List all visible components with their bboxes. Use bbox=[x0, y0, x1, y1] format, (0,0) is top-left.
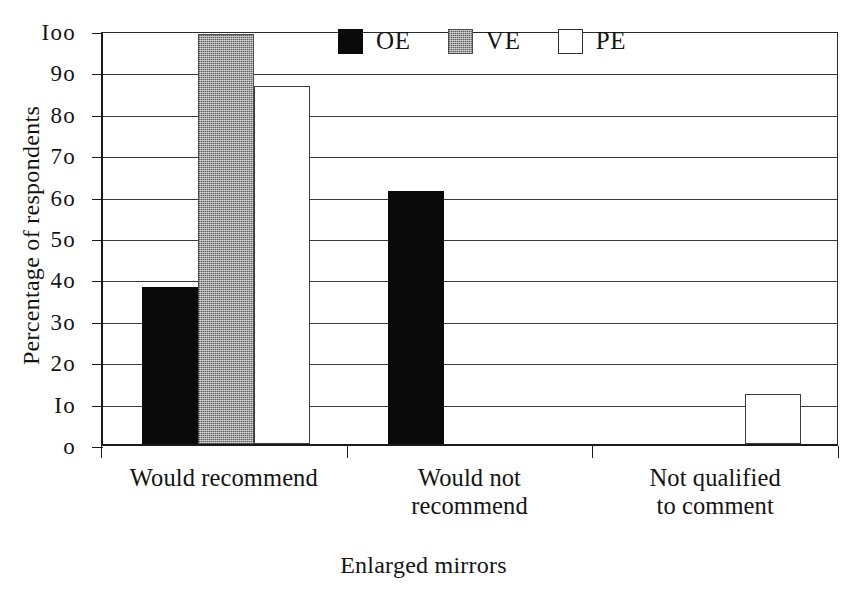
x-axis-category-line: Not qualified bbox=[592, 464, 838, 492]
y-axis-tick-label: 3o bbox=[18, 311, 76, 334]
y-axis-tick bbox=[92, 281, 103, 282]
y-axis-tick-label: o bbox=[18, 435, 76, 458]
x-axis-category-line: Would not bbox=[347, 464, 593, 492]
white-swatch bbox=[558, 29, 583, 54]
y-axis-tick-label: 6o bbox=[18, 187, 76, 210]
x-axis-tick bbox=[347, 446, 348, 458]
x-axis-category-1: Would recommend bbox=[101, 464, 347, 492]
x-axis-tick bbox=[592, 446, 593, 458]
bar-oe-group-2 bbox=[388, 191, 444, 444]
legend: OEVEPE bbox=[338, 27, 626, 55]
gray-swatch bbox=[448, 29, 473, 54]
y-axis-tick bbox=[92, 116, 103, 117]
x-axis-tick bbox=[838, 446, 839, 458]
y-axis-tick bbox=[92, 199, 103, 200]
legend-label: VE bbox=[486, 27, 521, 55]
y-axis-tick-label: 2o bbox=[18, 352, 76, 375]
bar-oe-group-1 bbox=[142, 287, 198, 444]
y-axis-tick-label: 4o bbox=[18, 269, 76, 292]
y-axis-tick-label: 8o bbox=[18, 104, 76, 127]
y-axis-tick bbox=[92, 406, 103, 407]
y-axis-tick-label: Io bbox=[18, 394, 76, 417]
y-axis-tick bbox=[92, 74, 103, 75]
x-axis-category-3: Not qualifiedto comment bbox=[592, 464, 838, 520]
plot-area bbox=[101, 32, 838, 446]
y-axis-tick bbox=[92, 240, 103, 241]
y-axis-tick bbox=[92, 33, 103, 34]
y-axis-tick-label: 7o bbox=[18, 145, 76, 168]
legend-label: OE bbox=[376, 27, 411, 55]
x-axis-category-line: Would recommend bbox=[101, 464, 347, 492]
y-axis-tick bbox=[92, 364, 103, 365]
bar-chart-figure: Percentage of respondents oIo2o3o4o5o6o7… bbox=[0, 0, 847, 603]
x-axis-category-2: Would notrecommend bbox=[347, 464, 593, 520]
x-axis-title: Enlarged mirrors bbox=[0, 552, 847, 579]
legend-label: PE bbox=[596, 27, 627, 55]
bar-pe-group-1 bbox=[254, 86, 310, 444]
legend-item-pe: PE bbox=[558, 27, 627, 55]
x-axis-category-line: recommend bbox=[347, 492, 593, 520]
y-axis-tick bbox=[92, 157, 103, 158]
legend-item-ve: VE bbox=[448, 27, 521, 55]
y-axis-tick-label: Ioo bbox=[18, 21, 76, 44]
y-axis-tick bbox=[92, 323, 103, 324]
black-swatch bbox=[338, 29, 363, 54]
y-axis-tick-label: 5o bbox=[18, 228, 76, 251]
legend-item-oe: OE bbox=[338, 27, 411, 55]
bar-ve-group-1 bbox=[198, 34, 254, 444]
x-axis-tick bbox=[101, 446, 102, 458]
bar-pe-group-3 bbox=[745, 394, 801, 444]
x-axis-category-line: to comment bbox=[592, 492, 838, 520]
y-axis-tick-label: 9o bbox=[18, 62, 76, 85]
